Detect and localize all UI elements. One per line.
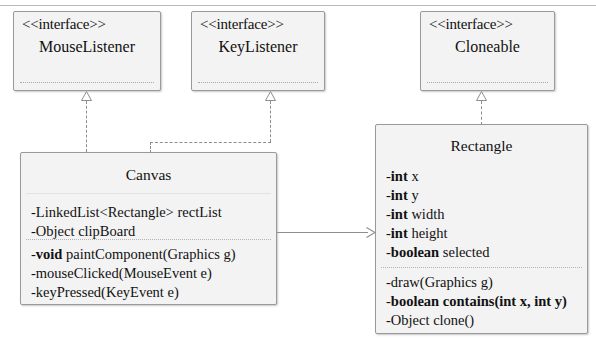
member-name: width — [411, 206, 444, 222]
uml-class-diagram: <<interface>> MouseListener <<interface>… — [0, 0, 596, 342]
member-type: Object — [36, 223, 75, 239]
member-name: keyPressed(KeyEvent e) — [36, 284, 179, 300]
member-name: rectList — [177, 204, 221, 220]
realization-line-canvas-keylistener — [150, 142, 151, 153]
member-row: -int height — [386, 224, 581, 243]
title-divider — [26, 193, 271, 194]
compartment-divider — [198, 82, 318, 83]
member-name: clipBoard — [78, 223, 135, 239]
member-name: draw(Graphics g) — [391, 274, 493, 290]
realization-line-rectangle-cloneable — [481, 101, 482, 125]
member-row: -Object clone() — [386, 311, 581, 330]
member-type: boolean — [391, 293, 439, 309]
realization-triangle-cloneable — [476, 91, 487, 100]
realization-triangle-mouselistener — [81, 91, 92, 100]
member-row: -keyPressed(KeyEvent e) — [31, 283, 270, 302]
member-row: -void paintComponent(Graphics g) — [31, 245, 270, 264]
interface-box-cloneable[interactable]: <<interface>> Cloneable — [420, 11, 555, 91]
interface-name-label: MouseListener — [14, 38, 160, 56]
interface-box-keylistener[interactable]: <<interface>> KeyListener — [191, 11, 325, 91]
member-row: -boolean selected — [386, 243, 581, 262]
member-row: -draw(Graphics g) — [386, 273, 581, 292]
compartment-divider — [427, 82, 548, 83]
member-name: contains(int x, int y) — [443, 293, 567, 309]
class-box-canvas[interactable]: Canvas -LinkedList<Rectangle> rectList-O… — [20, 152, 277, 305]
member-row: -boolean contains(int x, int y) — [386, 292, 581, 311]
class-name-rectangle: Rectangle — [376, 137, 587, 155]
attribute-method-divider — [381, 267, 582, 268]
member-row: -int y — [386, 186, 581, 205]
member-type: void — [36, 246, 63, 262]
member-type: int — [391, 168, 408, 184]
attribute-method-divider — [26, 239, 271, 240]
interface-name-label: Cloneable — [421, 38, 554, 56]
member-type: LinkedList<Rectangle> — [36, 204, 174, 220]
attribute-list-canvas: -LinkedList<Rectangle> rectList-Object c… — [31, 203, 270, 241]
member-row: -int width — [386, 205, 581, 224]
association-line-canvas-rectangle — [277, 232, 368, 233]
stereotype-label: <<interface>> — [429, 16, 513, 33]
realization-triangle-keylistener — [265, 91, 276, 100]
member-type: int — [391, 187, 408, 203]
compartment-divider — [20, 82, 154, 83]
member-type: int — [391, 206, 408, 222]
top-divider-rule — [0, 5, 596, 6]
member-name: x — [411, 168, 418, 184]
realization-line-keylistener-horizontal — [150, 142, 271, 143]
member-name: selected — [443, 244, 490, 260]
member-row: -int x — [386, 167, 581, 186]
attribute-list-rectangle: -int x-int y-int width-int height-boolea… — [386, 167, 581, 262]
member-name: mouseClicked(MouseEvent e) — [36, 265, 212, 281]
realization-line-keylistener-vertical — [270, 101, 271, 142]
member-type: boolean — [391, 244, 439, 260]
interface-name-label: KeyListener — [192, 38, 324, 56]
stereotype-label: <<interface>> — [200, 16, 284, 33]
member-name: paintComponent(Graphics g) — [66, 246, 236, 262]
member-row: -mouseClicked(MouseEvent e) — [31, 264, 270, 283]
association-arrowhead-icon — [366, 227, 375, 236]
interface-box-mouselistener[interactable]: <<interface>> MouseListener — [13, 11, 161, 91]
member-row: -LinkedList<Rectangle> rectList — [31, 203, 270, 222]
stereotype-label: <<interface>> — [22, 16, 106, 33]
member-name: y — [411, 187, 418, 203]
method-list-canvas: -void paintComponent(Graphics g)-mouseCl… — [31, 245, 270, 302]
class-name-canvas: Canvas — [21, 166, 276, 184]
realization-line-canvas-mouselistener — [86, 101, 87, 152]
member-name: clone() — [433, 312, 474, 328]
member-name: height — [411, 225, 447, 241]
member-type: int — [391, 225, 408, 241]
class-box-rectangle[interactable]: Rectangle -int x-int y-int width-int hei… — [375, 124, 588, 334]
method-list-rectangle: -draw(Graphics g)-boolean contains(int x… — [386, 273, 581, 330]
member-type: Object — [391, 312, 430, 328]
